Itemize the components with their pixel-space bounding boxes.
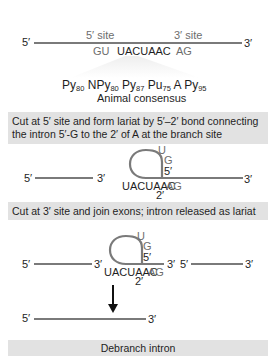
exon2-5prime-label: 5′ [180, 259, 188, 270]
exon1-3prime-label: 3′ [97, 173, 105, 184]
exon2-3prime-label: 3′ [245, 259, 253, 270]
branch-2prime-label: 2′ [135, 276, 143, 287]
lariat-3prime-label: 3′ [244, 174, 252, 185]
consensus-term: A [173, 78, 180, 92]
step2-text: Cut at 3′ site and join exons; intron re… [12, 205, 264, 218]
down-arrow-icon [107, 285, 119, 315]
consensus-term: Py80 [62, 78, 84, 92]
exon2-strand [191, 263, 243, 265]
spliced-strand [34, 318, 146, 320]
exon1-strand [35, 177, 93, 179]
consensus-term: Pu75 [148, 78, 171, 92]
spliced-5prime-label: 5′ [22, 313, 30, 324]
consensus-sequence: Py80 NPy80 Py87 Pu75 A Py95 [62, 78, 207, 92]
loop-5prime-label: 5′ [164, 166, 172, 177]
pre-mrna-strand [34, 42, 242, 44]
exon1-strand [34, 263, 92, 265]
intron-3prime-label: 3′ [167, 259, 175, 270]
exon1-5prime-label: 5′ [24, 173, 32, 184]
intron-exon2-strand [161, 177, 243, 179]
consensus-term: Py95 [184, 78, 206, 92]
exon1-3prime-label: 3′ [94, 259, 102, 270]
pre-mrna-3prime-label: 3′ [244, 38, 252, 49]
lariat-ag-sequence: AG [166, 181, 182, 192]
lariat-loop [126, 148, 186, 180]
pre-mrna-5prime-label: 5′ [22, 37, 30, 48]
lariat-ag-sequence: AG [148, 267, 164, 278]
spliced-3prime-label: 3′ [148, 314, 156, 325]
step3-text: Debranch intron [12, 342, 264, 355]
loop-5prime-label: 5′ [143, 252, 151, 263]
step1-text-line1: Cut at 5′ site and form lariat by 5′–2′ … [12, 115, 264, 128]
site-3-label: 3′ site [174, 30, 202, 41]
released-lariat-loop [106, 234, 166, 266]
site-5-label: 5′ site [86, 30, 114, 41]
consensus-term: Py87 [122, 78, 144, 92]
consensus-caption: Animal consensus [97, 93, 186, 104]
step2-caption-box: Cut at 3′ site and join exons; intron re… [8, 202, 268, 220]
step1-text-line2: the intron 5′-G to the 2′ of A at the br… [12, 128, 264, 141]
step3-caption-box: Debranch intron [8, 340, 268, 356]
branch-2prime-label: 2′ [156, 190, 164, 201]
consensus-term: Py80 [96, 78, 118, 92]
step1-caption-box: Cut at 5′ site and form lariat by 5′–2′ … [8, 112, 268, 144]
exon1-5prime-label: 5′ [22, 259, 30, 270]
